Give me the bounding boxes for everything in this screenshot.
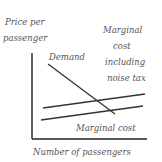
diagram-canvas (0, 0, 162, 162)
mc-tax-line (43, 94, 145, 108)
mc-line (41, 106, 143, 120)
